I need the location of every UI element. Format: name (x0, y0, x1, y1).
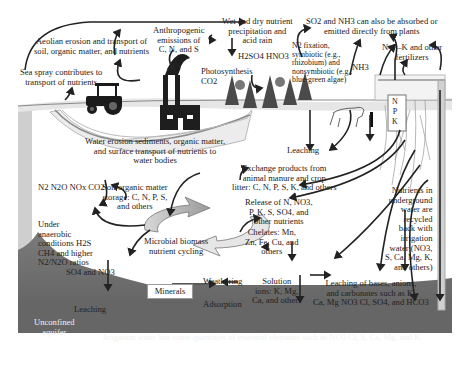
label-adsorption: Adsorption (203, 300, 242, 310)
label-exchange: Exchange products from animal manure and… (232, 164, 337, 193)
label-n2-fixation: N2 fixation, symbiotic (e.g., rhizobium)… (292, 42, 352, 85)
groundwater-line-9: and others) (385, 263, 433, 273)
label-nh3: NH3 (352, 63, 369, 73)
label-photosynthesis: Photosynthesis CO2 (201, 67, 253, 86)
label-aquifer: Unconfined aquifer (34, 318, 75, 337)
n2-line-5: blue-green algae) (292, 76, 352, 85)
label-gases: N2 N2O NOx CO2 (38, 183, 105, 193)
exchange-line-3: litter: C, N, P, S, K, and others (232, 183, 337, 193)
label-acids: H2SO4 HNO3 (238, 52, 289, 62)
aeolian-line-2: soil, organic matter, and nutrients (34, 47, 149, 57)
minerals-box: Minerals (147, 284, 193, 299)
microbial-line-2: nutrient cycling (144, 247, 208, 257)
label-npk-fertilizers: N–P–K and other fertilizers (382, 43, 442, 62)
npk-bag-n: N (392, 97, 398, 107)
anthropogenic-line-3: C, N, and S (153, 45, 205, 55)
label-npk-bag: N P K (392, 97, 398, 127)
label-so2-nh3: SO2 and NH3 can also be absorbed or emit… (306, 17, 438, 36)
label-so4-no3: SO4 and NO3 (66, 268, 115, 278)
npk-bag-k: K (392, 117, 398, 127)
label-release: Release of N, NO3, P, K, S, SO4, and oth… (245, 198, 313, 227)
soil-om-line-3: and others (102, 202, 168, 212)
water-erosion-line-3: water bodies (85, 156, 225, 166)
label-solution: Solution ions: K, Mg, Ca, and others (252, 277, 301, 306)
sea-spray-line-2: transport of nutrients (20, 78, 102, 88)
factory-icon (160, 54, 200, 130)
label-leaching-top: Leaching (287, 146, 319, 156)
npk-line-2: fertilizers (382, 53, 442, 63)
photosynthesis-line-2: CO2 (201, 77, 253, 87)
label-irrigation: Irrigation water has some quantities of … (103, 333, 420, 343)
label-water-erosion: Water erosion sediments, organic matter,… (85, 137, 225, 166)
label-aeolian: Aeolian erosion and transport of soil, o… (34, 37, 149, 56)
label-anaerobic: Under anaerobic conditions H2S CH4 and h… (38, 220, 93, 268)
label-leaching-bases: Leaching of bases, anions, and carbonate… (313, 279, 429, 308)
label-chelates: Chelates: Mn, Zn, Fe, Cu, and others (245, 228, 298, 257)
label-leaching-left: Leaching (74, 305, 106, 315)
npk-bag-p: P (392, 107, 398, 117)
label-sea-spray: Sea spray contributes to transport of nu… (20, 68, 102, 87)
wet-dry-line-3: acid rain (222, 36, 293, 46)
chelates-line-3: others (245, 247, 298, 257)
tractor-icon (86, 83, 122, 115)
release-line-3: other nutrients (245, 217, 313, 227)
soil-column-right (375, 75, 445, 100)
label-weathering: Weathering (203, 277, 242, 287)
label-groundwater: Nutrients in underground water are recyc… (385, 186, 433, 272)
so2-line-2: emitted directly from plants (306, 27, 438, 37)
label-microbial: Microbial biomass nutrient cycling (144, 237, 208, 256)
leaching-bases-line-3: Ca, Mg NO3 Cl, SO4, and HCO3 (313, 298, 429, 308)
solution-line-3: Ca, and others (252, 296, 301, 306)
label-anthropogenic: Anthropogenic emissions of C, N, and S (153, 26, 205, 55)
label-wet-dry: Wet and dry nutrient precipitation and a… (222, 17, 293, 46)
nutrient-cycle-diagram: Aeolian erosion and transport of soil, o… (0, 0, 469, 366)
aquifer-line-2: aquifer (34, 328, 75, 338)
label-soil-om: Soil organic matter storage: C, N, P, S,… (102, 183, 168, 212)
